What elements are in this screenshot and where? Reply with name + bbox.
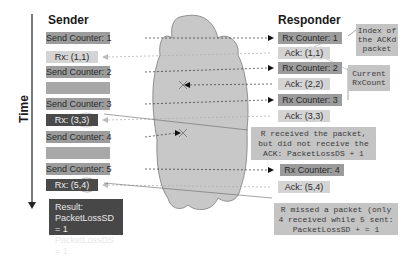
sender-send-counter-1: Send Counter: 1 (46, 32, 110, 44)
network-cloud (153, 15, 248, 209)
sender-header: Sender (48, 13, 89, 27)
responder-rx-counter-4: Rx Counter: 4 (280, 164, 344, 176)
sender-send-counter-5: Send Counter: 5 (46, 163, 110, 175)
note-missed-packet: R missed a packet (only 4 received while… (274, 203, 398, 235)
result-title: Result: (55, 202, 117, 213)
sender-empty-slot (46, 82, 110, 94)
sender-send-counter-2: Send Counter: 2 (46, 66, 110, 78)
sender-send-counter-4: Send Counter: 4 (46, 131, 110, 143)
result-box: Result: PacketLossSD = 1 PacketLossDS = … (49, 199, 123, 235)
responder-ack-2-2: Ack: (2,2) (278, 78, 330, 90)
responder-ack-1-1: Ack: (1,1) (278, 47, 330, 59)
responder-rx-counter-2: Rx Counter: 2 (278, 62, 342, 74)
responder-ack-5-4: Ack: (5,4) (278, 181, 330, 193)
note-current-rxcount: Current RxCount (348, 65, 390, 91)
sender-rx-3-3: Rx: (3,3) (46, 114, 98, 126)
time-arrow-head (28, 202, 36, 209)
note-lost-ack: R received the packet, but did not recei… (251, 127, 376, 160)
sender-empty-slot (46, 147, 110, 159)
sender-send-counter-3: Send Counter: 3 (46, 98, 110, 110)
responder-rx-counter-1: Rx Counter: 1 (278, 32, 342, 44)
time-axis-label: Time (17, 89, 31, 129)
result-packetloss-sd: PacketLossSD = 1 (55, 213, 117, 235)
responder-header: Responder (278, 13, 341, 27)
responder-rx-counter-3: Rx Counter: 3 (278, 94, 342, 106)
result-packetloss-ds: PacketLossDS = 1 (55, 235, 117, 257)
sender-rx-5-4: Rx: (5,4) (46, 179, 98, 191)
responder-ack-3-3: Ack: (3,3) (278, 110, 330, 122)
note-index-acked: Index of the ACKd packet (356, 24, 398, 56)
sender-rx-1-1: Rx: (1,1) (46, 51, 98, 63)
